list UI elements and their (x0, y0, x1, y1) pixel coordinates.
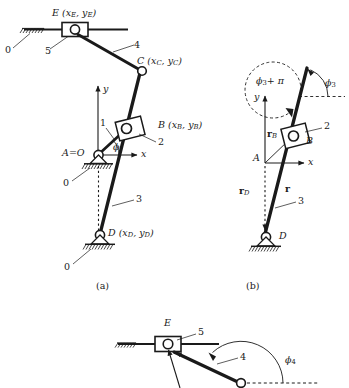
label-ground-0-A: 0 (63, 178, 69, 188)
label-point-A: A=O (62, 148, 85, 158)
arrowhead-phi3-plus-pi (286, 108, 294, 118)
leader-link-1 (106, 128, 114, 139)
panel-b-graphics (245, 62, 345, 251)
label-ground-0-D: 0 (64, 262, 70, 272)
label-link-3-a: 3 (136, 194, 142, 204)
leader-ground-top (13, 34, 30, 49)
label-point-B-b: B (306, 136, 313, 146)
figure-canvas: E (xE, yE) 0 5 4 C (xC, yC) y 1 B (xB, y… (0, 0, 349, 388)
panel-label-b: (b) (246, 281, 260, 291)
label-axis-y-a: y (103, 84, 108, 94)
support-triangle-D-b (257, 237, 275, 246)
label-angle-phi4: ϕ4 (285, 355, 296, 366)
label-point-D: D (xD, yD) (108, 228, 154, 239)
label-axis-x-b: x (308, 157, 313, 167)
label-link-5-c: 5 (198, 327, 204, 337)
pin-E-c (163, 339, 173, 349)
support-triangle-A (90, 155, 107, 164)
label-axis-x-a: x (141, 149, 146, 159)
pin-E (70, 25, 79, 34)
label-vector-r: r (285, 184, 290, 194)
label-link-5: 5 (45, 46, 51, 56)
label-link-4-a: 4 (134, 40, 140, 50)
label-angle-phi3-plus-pi: ϕ3+ π (256, 76, 284, 87)
ground-hatch-top (20, 28, 44, 33)
label-link-3-b: 3 (298, 196, 304, 206)
leader-link-3-b (275, 202, 296, 208)
label-angle-phi-a: ϕ (113, 142, 119, 152)
leader-ground-D (73, 249, 91, 264)
leader-link-3 (112, 200, 134, 206)
leader-link-4-c (217, 358, 238, 364)
arrowhead-phi4 (209, 353, 217, 362)
arrow-along-link-4 (176, 353, 196, 363)
leader-slider-2-a (139, 134, 156, 142)
label-angle-phi3: ϕ3 (325, 78, 336, 89)
label-link-1: 1 (100, 118, 106, 128)
label-link-4-c: 4 (240, 352, 246, 362)
pin-B (122, 124, 132, 134)
label-point-E: E (xE, yE) (52, 8, 96, 19)
leader-slider-5 (50, 37, 68, 50)
link-3-b (265, 68, 307, 234)
ground-hatch-A (82, 164, 112, 169)
label-point-A-b: A (253, 153, 260, 163)
label-point-C: C (xC, yC) (137, 56, 182, 67)
link-4-a (78, 35, 141, 71)
label-vector-rB: rB (267, 129, 277, 140)
label-point-B: B (xB, yB) (158, 120, 202, 131)
label-ground-0-top: 0 (5, 45, 11, 55)
panel-label-a: (a) (96, 281, 109, 291)
label-link-2-b: 2 (324, 121, 330, 131)
pin-B-b (289, 131, 299, 141)
support-triangle-D (91, 235, 109, 244)
label-link-2-a: 2 (158, 137, 164, 147)
label-point-E-c: E (164, 318, 171, 328)
label-axis-y-b: y (254, 92, 259, 102)
pin-c-lower (237, 379, 246, 388)
ground-hatch-D (83, 244, 113, 249)
ground-hatch-D-b (249, 246, 279, 251)
leader-ground-A (72, 168, 90, 181)
link-3-a (101, 75, 140, 230)
label-vector-rD: rD (239, 186, 249, 197)
leader-link-4 (113, 45, 134, 52)
label-point-D-b: D (279, 231, 287, 241)
